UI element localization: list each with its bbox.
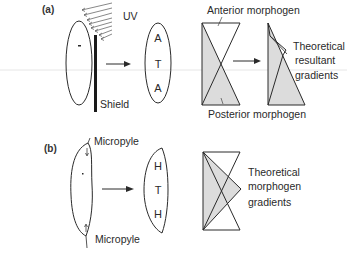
resultant-caption-2: resultant [295,54,335,66]
shield-label: Shield [100,98,129,110]
nucleus-dot [82,173,84,175]
arrow-right-icon [233,58,261,64]
egg-b [71,143,93,236]
shield-bar [94,35,97,112]
resultant-caption-3: gradients [295,69,338,81]
micropyle-top-label: Micropyle [94,135,139,147]
anterior-morphogen-label: Anterior morphogen [207,4,300,16]
micropyle-line-bottom [86,236,87,248]
uv-label: UV [123,10,138,22]
diagram-canvas [0,0,347,257]
panel-a-label: (a) [42,4,54,15]
micropyle-line-top [88,138,90,143]
micropyle-bottom-label: Micropyle [95,233,140,245]
gradients-caption-2: morphogen [248,180,301,192]
result-letter-b-1: H [152,160,164,172]
arrow-right-icon [106,61,131,67]
result-letter-b-3: H [152,208,164,220]
gradients-caption-1: Theoretical [248,166,300,178]
result-letter-a-2: T [152,58,164,70]
posterior-morphogen-label: Posterior morphogen [208,108,306,120]
egg-a [66,21,92,105]
gradients-caption-3: gradients [248,196,291,208]
result-letter-a-3: A [152,82,164,94]
uv-rays-icon [82,3,112,41]
nucleus-dots [78,45,81,47]
panel-b-label: (b) [44,143,57,154]
arrow-right-icon [102,186,134,192]
result-letter-b-2: T [152,184,164,196]
resultant-caption-1: Theoretical [293,40,345,52]
morphogen-gradient-diagram-b [203,152,241,230]
result-letter-a-1: A [152,32,164,44]
